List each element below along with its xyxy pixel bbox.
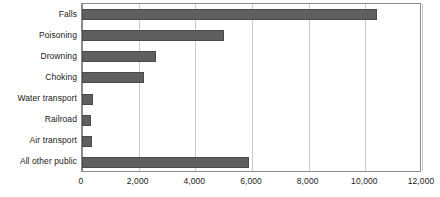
- bar-slot: [82, 46, 422, 67]
- gridline-12000: [422, 4, 423, 171]
- bar[interactable]: [82, 30, 224, 41]
- x-tick-label: 8,000: [297, 176, 319, 186]
- category-label: Water transport: [17, 88, 77, 109]
- bars-layer: [82, 4, 420, 171]
- category-label: All other public: [20, 151, 77, 172]
- x-tick-label: 12,000: [408, 176, 435, 186]
- category-label: Poisoning: [39, 24, 77, 45]
- x-tick-label: 4,000: [183, 176, 205, 186]
- bar-chart: FallsPoisoningDrowningChokingWater trans…: [0, 0, 440, 197]
- bar-slot: [82, 89, 422, 110]
- bar[interactable]: [82, 9, 377, 20]
- bar-slot: [82, 152, 422, 173]
- plot-area: [81, 3, 421, 172]
- bar[interactable]: [82, 51, 156, 62]
- bar[interactable]: [82, 94, 93, 105]
- bar[interactable]: [82, 157, 249, 168]
- bar[interactable]: [82, 72, 144, 83]
- bar-slot: [82, 4, 422, 25]
- category-label: Drowning: [40, 45, 77, 66]
- x-tick-label: 10,000: [351, 176, 378, 186]
- category-label: Falls: [59, 3, 77, 24]
- x-axis-tick-labels: 02,0004,0006,0008,00010,00012,000: [81, 176, 421, 190]
- bar[interactable]: [82, 136, 92, 147]
- category-label: Air transport: [30, 130, 77, 151]
- bar-slot: [82, 67, 422, 88]
- category-axis-labels: FallsPoisoningDrowningChokingWater trans…: [0, 3, 77, 172]
- category-label: Choking: [45, 66, 77, 87]
- x-tick-label: 6,000: [240, 176, 262, 186]
- x-tick-label: 0: [79, 176, 84, 186]
- category-label: Railroad: [45, 109, 77, 130]
- bar[interactable]: [82, 115, 91, 126]
- bar-slot: [82, 25, 422, 46]
- x-tick-label: 2,000: [127, 176, 149, 186]
- bar-slot: [82, 131, 422, 152]
- bar-slot: [82, 110, 422, 131]
